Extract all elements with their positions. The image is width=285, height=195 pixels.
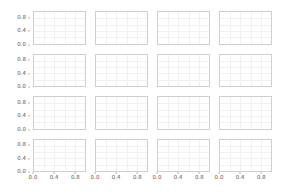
x-tick-label: 0.4 [50, 175, 59, 180]
gridline-horizontal [220, 146, 271, 147]
gridlines [220, 140, 271, 172]
gridlines [96, 12, 147, 44]
y-tick-label: 0.0 [17, 127, 26, 132]
gridline-vertical [251, 55, 252, 87]
gridline-horizontal [158, 116, 209, 117]
x-tick-mark [219, 172, 220, 174]
y-tick-mark [28, 60, 30, 61]
y-tick-mark [28, 87, 30, 88]
gridlines [96, 97, 147, 129]
gridline-vertical [106, 12, 107, 44]
subplot-r3-c1 [95, 139, 148, 173]
subplot-r3-c0 [33, 139, 86, 173]
x-tick-mark [116, 172, 117, 174]
gridline-horizontal [220, 110, 271, 111]
y-axis-row-2: 0.80.40.0 [0, 96, 30, 130]
gridline-vertical [261, 12, 262, 44]
gridline-horizontal [96, 122, 147, 123]
gridline-horizontal [158, 37, 209, 38]
x-tick-label: 0.0 [91, 175, 100, 180]
subplot-r1-c1 [95, 54, 148, 88]
y-tick-label: 0.4 [17, 113, 26, 118]
gridline-vertical [75, 55, 76, 87]
gridline-vertical [199, 140, 200, 172]
gridline-vertical [261, 140, 262, 172]
x-axis-col-2: 0.00.40.8 [157, 172, 210, 186]
gridline-horizontal [34, 103, 85, 104]
gridline-horizontal [220, 25, 271, 26]
y-axis-row-1: 0.80.40.0 [0, 54, 30, 88]
gridline-horizontal [34, 165, 85, 166]
gridline-vertical [127, 97, 128, 129]
gridlines [158, 55, 209, 87]
gridline-horizontal [34, 146, 85, 147]
subplot-r0-c1 [95, 11, 148, 45]
gridline-horizontal [96, 103, 147, 104]
subplot-r0-c2 [157, 11, 210, 45]
gridline-horizontal [220, 31, 271, 32]
x-tick-label: 0.8 [257, 175, 266, 180]
x-tick-label: 0.8 [195, 175, 204, 180]
gridline-vertical [240, 12, 241, 44]
subplot-r0-c3 [219, 11, 272, 45]
gridline-horizontal [220, 80, 271, 81]
y-tick-mark [28, 17, 30, 18]
x-axis-col-3: 0.00.40.8 [219, 172, 272, 186]
x-tick-label: 0.4 [236, 175, 245, 180]
gridline-vertical [54, 12, 55, 44]
gridline-vertical [137, 97, 138, 129]
y-tick-mark [28, 102, 30, 103]
gridline-horizontal [158, 18, 209, 19]
gridline-horizontal [96, 73, 147, 74]
gridline-vertical [44, 97, 45, 129]
gridline-vertical [137, 55, 138, 87]
x-axis-col-1: 0.00.40.8 [95, 172, 148, 186]
gridline-horizontal [96, 61, 147, 62]
gridlines [158, 140, 209, 172]
gridline-horizontal [34, 80, 85, 81]
gridline-horizontal [34, 116, 85, 117]
gridline-horizontal [96, 152, 147, 153]
x-axis-col-0: 0.00.40.8 [33, 172, 86, 186]
gridlines [158, 97, 209, 129]
y-axis-row-3: 0.80.40.0 [0, 139, 30, 173]
gridline-vertical [251, 12, 252, 44]
gridline-vertical [75, 140, 76, 172]
gridline-vertical [240, 55, 241, 87]
figure-canvas: 0.80.40.00.80.40.00.80.40.00.80.40.0 0.0… [0, 0, 285, 195]
gridline-horizontal [34, 37, 85, 38]
gridline-horizontal [96, 116, 147, 117]
gridline-horizontal [34, 67, 85, 68]
gridline-horizontal [220, 165, 271, 166]
y-tick-label: 0.0 [17, 84, 26, 89]
subplot-r2-c0 [33, 96, 86, 130]
y-tick-label: 0.4 [17, 71, 26, 76]
gridline-vertical [240, 140, 241, 172]
subplot-r1-c2 [157, 54, 210, 88]
gridlines [96, 55, 147, 87]
gridline-horizontal [220, 18, 271, 19]
x-tick-mark [54, 172, 55, 174]
gridline-vertical [168, 140, 169, 172]
gridline-horizontal [158, 152, 209, 153]
gridline-horizontal [96, 158, 147, 159]
subplot-r2-c3 [219, 96, 272, 130]
gridline-horizontal [34, 25, 85, 26]
gridline-vertical [75, 12, 76, 44]
gridline-vertical [54, 97, 55, 129]
subplot-r2-c1 [95, 96, 148, 130]
gridlines [220, 55, 271, 87]
gridline-vertical [127, 55, 128, 87]
y-tick-mark [28, 172, 30, 173]
gridline-vertical [240, 97, 241, 129]
y-tick-mark [28, 116, 30, 117]
y-tick-label: 0.8 [17, 100, 26, 105]
gridline-vertical [44, 55, 45, 87]
gridline-vertical [199, 12, 200, 44]
y-axis-row-0: 0.80.40.0 [0, 11, 30, 45]
gridlines [34, 140, 85, 172]
x-tick-mark [240, 172, 241, 174]
gridline-vertical [116, 140, 117, 172]
gridline-vertical [75, 97, 76, 129]
gridline-vertical [116, 12, 117, 44]
